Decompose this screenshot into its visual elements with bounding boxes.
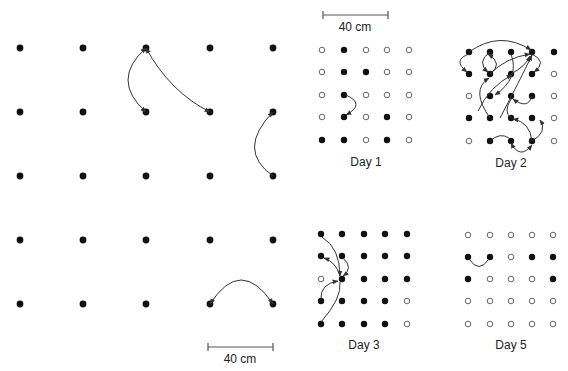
hollow-dot [363,137,369,143]
hollow-dot [550,232,556,238]
hollow-dot [465,321,471,327]
movement-arrow [321,281,338,299]
filled-dot [341,47,347,53]
filled-dot [339,276,345,282]
hollow-dot [319,69,325,75]
hollow-dot [508,232,514,238]
top-scale-bar-label: 40 cm [339,20,372,34]
filled-dot [207,173,214,180]
hollow-dot [487,321,493,327]
filled-dot [339,253,345,259]
hollow-dot [551,138,557,144]
hollow-dot [529,321,535,327]
filled-dot [361,298,367,304]
filled-dot [529,115,535,121]
filled-dot [80,45,87,52]
bottom-scale-bar [208,343,273,351]
filled-dot [319,137,325,143]
filled-dot [17,45,24,52]
hollow-dot [550,321,556,327]
filled-dot [80,237,87,244]
hollow-dot [551,71,557,77]
hollow-dot [406,114,412,120]
filled-dot [487,254,493,260]
hollow-dot [529,298,535,304]
movement-arrow [146,48,210,112]
movement-arrow [511,143,532,152]
filled-dot [339,231,345,237]
top-scale-bar [323,11,388,19]
hollow-dot [466,93,472,99]
day1-panel [319,47,412,143]
filled-dot [404,276,410,282]
day1-label: Day 1 [350,155,381,169]
hollow-dot [508,321,514,327]
day3-panel [318,231,410,327]
filled-dot [339,298,345,304]
movement-arrow [128,48,146,112]
movement-arrow [346,95,356,115]
movement-arrow [343,258,349,276]
movement-arrow [460,54,469,72]
dot-grid-figure [0,0,568,371]
movement-arrow [532,54,541,72]
hollow-dot [487,232,493,238]
filled-dot [382,231,388,237]
day5-panel [465,232,556,327]
hollow-dot [404,321,410,327]
filled-dot [17,109,24,116]
filled-dot [80,173,87,180]
hollow-dot [529,232,535,238]
filled-dot [80,109,87,116]
filled-dot [361,253,367,259]
filled-dot [80,301,87,308]
filled-dot [143,173,150,180]
filled-dot [339,321,345,327]
hollow-dot [318,276,324,282]
movement-arrow [469,259,489,267]
filled-dot [465,276,471,282]
filled-dot [465,254,471,260]
hollow-dot [465,298,471,304]
hollow-dot [319,114,325,120]
filled-dot [487,93,493,99]
day5-label: Day 5 [495,338,526,352]
hollow-dot [529,276,535,282]
day-panels [318,40,557,327]
hollow-dot [508,276,514,282]
filled-dot [207,237,214,244]
filled-dot [361,321,367,327]
hollow-dot [466,138,472,144]
filled-dot [207,45,214,52]
hollow-dot [384,69,390,75]
filled-dot [404,253,410,259]
hollow-dot [384,47,390,53]
filled-dot [384,137,390,143]
day2-panel [460,40,557,152]
hollow-dot [406,69,412,75]
day2-label: Day 2 [495,156,526,170]
movement-arrow [469,40,531,52]
filled-dot [550,254,556,260]
hollow-dot [363,47,369,53]
left-movement-arrows [128,48,273,304]
hollow-dot [465,232,471,238]
filled-dot [143,301,150,308]
hollow-dot [508,298,514,304]
hollow-dot [406,47,412,53]
filled-dot [143,237,150,244]
filled-dot [341,137,347,143]
day3-label: Day 3 [348,338,379,352]
filled-dot [361,231,367,237]
hollow-dot [487,298,493,304]
hollow-dot [319,92,325,98]
hollow-dot [508,254,514,260]
filled-dot [318,253,324,259]
filled-dot [382,298,388,304]
hollow-dot [363,92,369,98]
filled-dot [17,237,24,244]
left-dot-grid [17,45,277,308]
filled-dot [318,231,324,237]
filled-dot [382,276,388,282]
movement-arrow [324,258,340,276]
